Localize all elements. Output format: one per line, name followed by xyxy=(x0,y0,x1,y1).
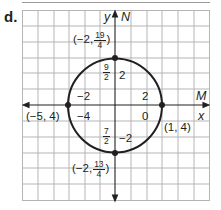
x-axis-label: x xyxy=(198,110,204,123)
n-tick-top: 9 2 xyxy=(103,63,110,81)
y-axis-label: y xyxy=(104,11,110,24)
coordinate-grid xyxy=(0,0,221,210)
point-label-bottom: (−2, 13 4 ) xyxy=(72,160,109,178)
m-axis-label: M xyxy=(196,90,206,103)
x-tick-neg4: −4 xyxy=(77,111,90,123)
y-tick-2: 2 xyxy=(119,70,125,82)
x-tick-0: 0 xyxy=(142,111,148,123)
point-label-top: (−2, 19 4 ) xyxy=(73,31,110,49)
m-tick-neg2: −2 xyxy=(77,91,90,103)
n-tick-bottom: 7 2 xyxy=(103,127,110,145)
point-label-right: (1, 4) xyxy=(164,122,191,134)
axes xyxy=(23,11,209,201)
m-tick-2: 2 xyxy=(142,91,148,103)
point-label-left: (−5, 4) xyxy=(26,111,60,123)
y-tick-neg2: −2 xyxy=(119,133,132,145)
n-axis-label: N xyxy=(121,11,130,24)
